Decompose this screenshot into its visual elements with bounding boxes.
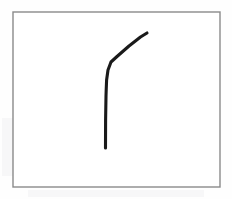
figure-canvas bbox=[0, 0, 232, 199]
line-drawing bbox=[0, 0, 232, 199]
figure-border bbox=[13, 12, 220, 187]
